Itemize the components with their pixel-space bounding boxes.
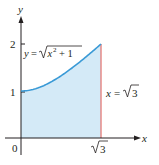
y-tick-label-2: 2 bbox=[10, 38, 16, 50]
boundary-line-label: x = 3 bbox=[105, 85, 139, 99]
curve-eq-plus-one: + 1 bbox=[59, 48, 73, 59]
x-axis-label: x bbox=[141, 132, 147, 144]
x-tick-label-sqrt3: 3 bbox=[91, 141, 108, 155]
curve-eq-x: x bbox=[47, 48, 53, 59]
x-axis-arrow-icon bbox=[134, 136, 141, 141]
line-eq-radicand: 3 bbox=[132, 87, 138, 99]
y-axis-arrow-icon bbox=[19, 16, 24, 23]
curve-eq-y: y bbox=[23, 48, 29, 59]
y-axis-label: y bbox=[17, 3, 23, 15]
chart: y x 2 1 0 3 y = x 2 + 1 x = 3 bbox=[0, 0, 159, 165]
y-tick-label-1: 1 bbox=[10, 86, 16, 98]
origin-label: 0 bbox=[12, 142, 18, 154]
curve-eq-exponent: 2 bbox=[53, 46, 57, 54]
x-tick-label-sqrt3-radicand: 3 bbox=[100, 143, 106, 155]
line-eq-x: x bbox=[105, 87, 111, 99]
line-eq-equals: = bbox=[114, 87, 120, 99]
curve-equation-label: y = x 2 + 1 bbox=[23, 46, 82, 59]
curve-eq-equals: = bbox=[31, 48, 37, 59]
